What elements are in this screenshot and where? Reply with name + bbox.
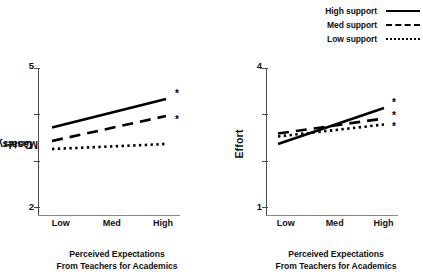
x-axis-title-line1: Perceived Expectations (69, 249, 164, 259)
x-axis-tick-labels-effort: Low Med High (266, 218, 398, 232)
x-axis-title-line1: Perceived Expectations (288, 249, 383, 259)
x-tick-label-low: Low (277, 218, 295, 228)
dotted-line-icon (386, 34, 420, 44)
x-tick-label-high: High (153, 218, 173, 228)
y-axis-max-label: 5 (29, 60, 34, 71)
x-tick-label-med: Med (103, 218, 121, 228)
series-lines-effort (266, 68, 398, 216)
legend: High support Med support Low support (296, 4, 420, 46)
series-container-mastery-goals: * * (38, 68, 180, 216)
plot-area-mastery-goals: Mastery Goals 5 2 (6, 58, 206, 230)
legend-item-med-support: Med support (296, 18, 420, 31)
x-tick-label-high: High (373, 218, 393, 228)
x-axis-title-effort: Perceived Expectations From Teachers for… (258, 249, 414, 272)
chart-panel-mastery-goals: Mastery Goals 5 2 (6, 58, 206, 230)
significance-marker: * (175, 115, 179, 125)
x-axis-tick-labels-mastery-goals: Low Med High (38, 218, 180, 232)
y-axis-title-mastery-goals: Mastery Goals (6, 58, 28, 230)
series-line-med-support (52, 116, 166, 141)
series-line-low-support (52, 144, 166, 149)
chart-panel-effort: Effort 4 1 * (228, 58, 420, 230)
y-axis-title-line2: Goals (2, 139, 32, 150)
axes-effort: 4 1 * * * (266, 58, 398, 230)
legend-item-label: Low support (327, 34, 377, 44)
series-lines-mastery-goals (38, 68, 180, 216)
series-line-high-support (52, 99, 166, 128)
significance-marker: * (392, 111, 396, 121)
dashed-line-icon (386, 20, 420, 30)
significance-marker: * (392, 98, 396, 108)
solid-line-icon (386, 6, 420, 16)
plot-area-effort: Effort 4 1 * (228, 58, 420, 230)
legend-item-label: High support (325, 6, 377, 16)
series-container-effort: * * * (266, 68, 398, 216)
x-axis-title-mastery-goals: Perceived Expectations From Teachers for… (38, 249, 196, 272)
series-line-high-support (278, 108, 384, 144)
x-tick-label-med: Med (326, 218, 344, 228)
significance-marker: * (392, 122, 396, 132)
significance-marker: * (175, 89, 179, 99)
x-axis-title-line2: From Teachers for Academics (57, 261, 178, 271)
y-axis-max-label: 4 (257, 60, 262, 71)
legend-item-high-support: High support (296, 4, 420, 17)
x-axis-title-line2: From Teachers for Academics (276, 261, 397, 271)
axes-mastery-goals: 5 2 * * (38, 58, 180, 230)
x-tick-label-low: Low (52, 218, 70, 228)
y-axis-title-effort: Effort (228, 58, 250, 230)
legend-item-low-support: Low support (296, 32, 420, 45)
legend-item-label: Med support (327, 20, 377, 30)
